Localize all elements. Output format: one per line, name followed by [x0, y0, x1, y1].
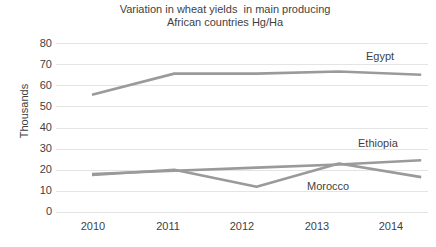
- y-tick-label: 30: [24, 143, 52, 153]
- series-line-egypt: [92, 72, 421, 95]
- chart-title: Variation in wheat yields in main produc…: [60, 3, 390, 29]
- y-tick-label: 0: [24, 206, 52, 216]
- series-label-ethiopia: Ethiopia: [358, 137, 398, 149]
- plot-area: [56, 43, 428, 212]
- x-tick-label: 2013: [287, 220, 347, 232]
- series-label-morocco: Morocco: [307, 180, 349, 192]
- gridline: [56, 212, 428, 213]
- y-tick-label: 20: [24, 164, 52, 174]
- chart-title-line-1: Variation in wheat yields in main produc…: [120, 3, 331, 15]
- y-tick-label: 60: [24, 80, 52, 90]
- line-chart: Variation in wheat yields in main produc…: [0, 0, 436, 247]
- y-tick-label: 10: [24, 185, 52, 195]
- x-tick-label: 2011: [138, 220, 198, 232]
- x-tick-label: 2010: [63, 220, 123, 232]
- series-label-egypt: Egypt: [366, 50, 394, 62]
- y-tick-label: 80: [24, 38, 52, 48]
- x-tick-label: 2014: [361, 220, 421, 232]
- series-container: [56, 43, 428, 212]
- x-tick-label: 2012: [212, 220, 272, 232]
- chart-title-line-2: African countries Hg/Ha: [167, 16, 283, 28]
- y-tick-label: 50: [24, 101, 52, 111]
- y-tick-label: 40: [24, 122, 52, 132]
- y-tick-label: 70: [24, 59, 52, 69]
